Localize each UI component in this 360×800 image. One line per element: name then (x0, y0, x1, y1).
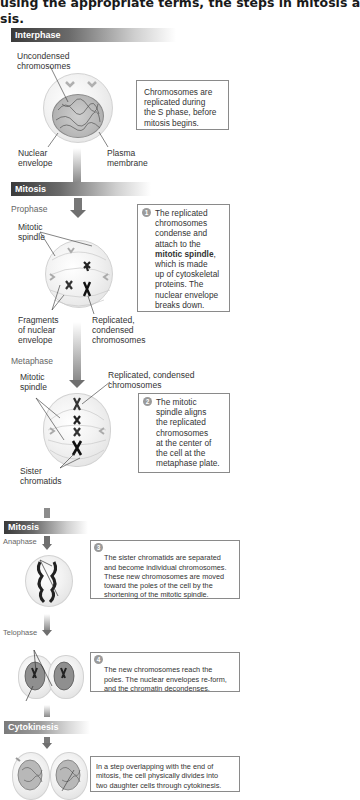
box-line: metaphase plate. (156, 458, 220, 468)
telophase-cell-right (48, 655, 84, 699)
step-number-badge: 3 (94, 543, 103, 552)
box-line: the S phase, before (144, 107, 228, 117)
box-line: mitosis, the cell physically divides int… (96, 771, 239, 780)
prophase-cell (45, 240, 113, 308)
step-number-badge: 2 (143, 397, 152, 406)
anaphase-label: Anaphase (3, 537, 37, 547)
label-replicated-condensed-chromosomes-metaphase: Replicated, condensed chromosomes (108, 370, 194, 390)
punctuation: , (214, 249, 216, 259)
label-line: Sister (20, 466, 62, 476)
label-line: envelope (18, 158, 53, 168)
step-number-badge: 4 (94, 655, 103, 664)
box-line: two daughter cells through cytokinesis. (96, 781, 239, 790)
anaphase-cell (25, 555, 73, 607)
label-uncondensed-chromosomes: Uncondensed chromosomes (17, 51, 70, 71)
prophase-arrowhead-icon (70, 210, 86, 218)
box-line: The replicated (155, 208, 219, 218)
box-line: proteins. The (155, 279, 219, 289)
box-line: at the center of (156, 438, 220, 448)
anaphase-arrowhead-icon (42, 544, 52, 550)
box-line: condense and (155, 228, 219, 238)
box-line: and become individual chromosomes. (104, 563, 239, 572)
label-line: envelope (18, 335, 59, 345)
arrow-to-mitosis (73, 148, 81, 182)
label-line: Replicated, (92, 315, 145, 325)
interphase-band: Interphase (11, 28, 176, 42)
telophase-arrow-shaft (44, 614, 50, 630)
label-line: Replicated, condensed (108, 370, 194, 380)
question-title-line2: sis. (0, 11, 248, 27)
anaphase-arrow-shaft (44, 536, 50, 544)
box-line: Chromosomes are (144, 87, 228, 97)
prophase-label: Prophase (11, 204, 47, 214)
label-mitotic-spindle: Mitotic spindle (18, 222, 45, 242)
label-line: Mitotic (20, 372, 47, 382)
label-line: of nuclear (18, 325, 59, 335)
arrow-to-cytokinesis (44, 705, 50, 717)
label-mitotic-spindle-metaphase: Mitotic spindle (20, 372, 47, 392)
label-line: Plasma (107, 148, 148, 158)
label-line: Uncondensed (17, 51, 70, 61)
telophase-label: Telophase (3, 628, 37, 638)
box-line: The new chromosomes reach the (104, 665, 239, 674)
box-line: breaks down. (155, 300, 219, 310)
box-line: These new chromosomes are moved (104, 572, 239, 581)
box-line: toward the poles of the cell by the (104, 581, 239, 590)
mitosis-band: Mitosis (11, 182, 151, 196)
box-line: attach to the (155, 239, 219, 249)
label-line: condensed (92, 325, 145, 335)
box-line: spindle aligns (156, 407, 220, 417)
box-text: The replicated chromosomes condense and … (155, 208, 219, 310)
prophase-description-box: 1 The replicated chromosomes condense an… (137, 204, 230, 312)
box-line: up of cytoskeletal (155, 269, 219, 279)
telophase-description-box: 4 The new chromosomes reach the poles. T… (90, 652, 240, 692)
metaphase-arrowhead-icon (69, 380, 85, 388)
box-line: mitosis begins. (144, 118, 228, 128)
question-title-line1: using the appropriate terms, the steps i… (0, 0, 248, 11)
label-line: chromatids (20, 476, 62, 486)
box-line: shortening of the mitotic spindle. (104, 590, 239, 599)
label-line: chromosomes (108, 380, 194, 390)
box-line: The sister chromatids are separated (104, 553, 239, 562)
label-line: Nuclear (18, 148, 53, 158)
label-line: chromosomes (17, 61, 70, 71)
box-line: The mitotic (156, 397, 220, 407)
label-line: membrane (107, 158, 148, 168)
box-text: The new chromosomes reach the poles. The… (104, 665, 239, 693)
box-line: In a step overlapping with the end of (96, 762, 239, 771)
label-sister-chromatids: Sister chromatids (20, 466, 62, 486)
label-replicated-condensed-chromosomes: Replicated, condensed chromosomes (92, 315, 145, 345)
interphase-nucleus (52, 94, 104, 138)
box-content: 1 The replicated chromosomes condense an… (142, 208, 229, 310)
interphase-description-box: Chromosomes are replicated during the S … (136, 80, 229, 130)
prophase-arrow-shaft (74, 198, 82, 210)
anaphase-description-box: 3 The sister chromatids are separated an… (90, 540, 240, 599)
box-line: poles. The nuclear envelopes re-form, (104, 675, 239, 684)
question-title: using the appropriate terms, the steps i… (0, 0, 248, 27)
box-line: nuclear envelope (155, 290, 219, 300)
telophase-arrowhead-icon (42, 630, 52, 636)
box-content: 2 The mitotic spindle aligns the replica… (143, 397, 229, 468)
label-fragments-nuclear-envelope: Fragments of nuclear envelope (18, 315, 59, 345)
label-line: spindle (20, 382, 47, 392)
box-line: chromosomes (155, 218, 219, 228)
box-line-bold: mitotic spindle, (155, 249, 219, 259)
box-line: the cell at the (156, 448, 220, 458)
arrow-to-mitosis-2 (44, 508, 50, 518)
label-nuclear-envelope: Nuclear envelope (18, 148, 53, 168)
box-text: The mitotic spindle aligns the replicate… (156, 397, 220, 468)
label-line: Mitotic (18, 222, 45, 232)
cytokinesis-description-box: In a step overlapping with the end of mi… (90, 756, 240, 792)
label-line: chromosomes (92, 335, 145, 345)
metaphase-label: Metaphase (11, 356, 53, 366)
bold-term: mitotic spindle (155, 249, 214, 259)
metaphase-cell (43, 393, 111, 467)
box-text: The sister chromatids are separated and … (104, 553, 239, 599)
daughter-cell-left (12, 752, 50, 800)
label-line: spindle (18, 232, 45, 242)
box-line: replicated during (144, 97, 228, 107)
arrow-to-metaphase (73, 322, 81, 380)
label-plasma-membrane: Plasma membrane (107, 148, 148, 168)
box-line: which is made (155, 259, 219, 269)
label-line: Fragments (18, 315, 59, 325)
